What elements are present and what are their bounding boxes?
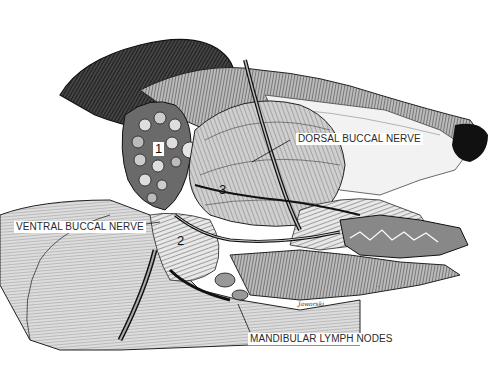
artist-signature: Jaworski (298, 300, 324, 307)
dog-head-drawing (0, 0, 495, 365)
region-number-1: 1 (153, 142, 164, 156)
anatomical-illustration: DORSAL BUCCAL NERVE VENTRAL BUCCAL NERVE… (0, 0, 495, 365)
label-mandibular-lymph-nodes: MANDIBULAR LYMPH NODES (248, 333, 395, 345)
region-number-2: 2 (177, 234, 184, 248)
label-dorsal-buccal-nerve: DORSAL BUCCAL NERVE (296, 133, 423, 145)
label-ventral-buccal-nerve: VENTRAL BUCCAL NERVE (14, 221, 146, 233)
region-number-3: 3 (219, 183, 226, 197)
